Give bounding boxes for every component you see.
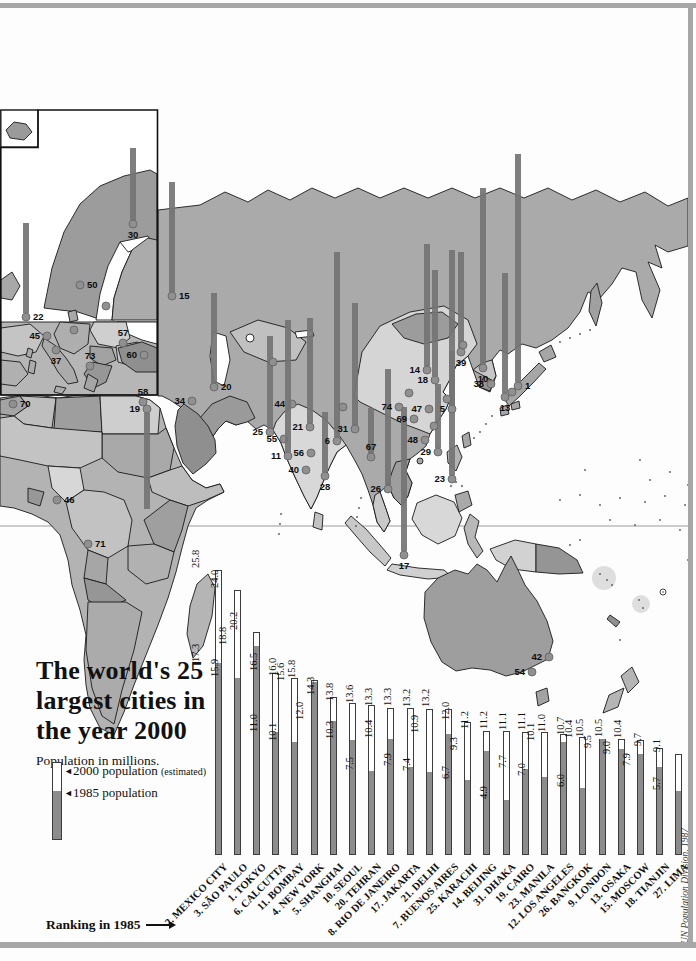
city-rank-label: 48 [407,434,418,445]
city-rank-label: 50 [87,279,98,290]
city-dot [421,436,429,444]
city-dot [508,388,516,396]
city-rank-label: 15 [179,290,190,301]
city-dot [528,668,536,676]
sri-lanka [313,512,323,530]
frame-top [0,3,696,8]
new-caledonia [607,615,620,627]
legend-sample-bar-1985-segment [53,791,61,839]
city-rank-label: 6 [325,435,330,446]
city-dot [367,453,375,461]
city-rank-label: 45 [29,330,40,341]
map-population-bar [334,252,340,437]
city-dot [501,393,509,401]
city-dot [140,351,148,359]
map-population-bar [385,369,391,485]
city-dot [210,383,218,391]
city-rank-label: 31 [337,423,348,434]
map-population-bar [130,148,136,220]
city-dot [410,415,418,423]
city-rank-label: 42 [531,651,542,662]
map-population-bar [307,318,313,423]
city-dot [333,437,341,445]
city-dot [514,382,522,390]
city-rank-label: 39 [456,357,467,368]
city-dot [86,362,94,370]
city-rank-label: 30 [128,229,139,240]
city-rank-label: 19 [129,403,140,414]
city-dot [76,281,84,289]
city-rank-label: 70 [20,398,31,409]
city-rank-label: 55 [266,433,277,444]
ranking-label: Ranking in 1985 [46,917,141,932]
city-dot [443,395,451,403]
city-dot [545,653,553,661]
city-dot [321,472,329,480]
city-rank-label: 56 [293,447,304,458]
city-rank-label: 18 [417,374,428,385]
legend-2000-note: (estimated) [161,766,206,777]
city-dot [9,400,17,408]
city-rank-label: 54 [514,666,525,677]
map-population-bar [435,384,441,448]
poster-title-line-3: the year 2000 [36,716,246,746]
atlas-poster: 3022504537735760155819347046712044212555… [0,0,696,961]
city-dot [70,326,78,334]
new-zealand-south [603,688,624,713]
city-dot [487,380,495,388]
city-dot [52,346,60,354]
city-dot [459,341,467,349]
city-rank-label: 34 [174,395,185,406]
city-dot [384,485,392,493]
city-dot [448,475,456,483]
city-rank-label: 57 [118,327,129,338]
city-rank-label: 23 [434,473,445,484]
city-dot [22,313,30,321]
city-rank-label: 69 [396,413,407,424]
sulawesi [464,514,483,558]
city-dot [479,364,487,372]
city-dot [143,405,151,413]
map-population-bar [352,303,358,425]
city-dot [84,540,92,548]
map-population-bar [144,413,150,509]
city-dot [102,302,110,310]
denmark [68,310,78,322]
city-rank-label: 13 [500,402,511,413]
city-dot [129,220,137,228]
city-rank-label: 11 [271,450,282,461]
sardinia [28,360,36,374]
city-rank-label: 29 [420,446,431,457]
city-dot [434,448,442,456]
city-rank-label: 47 [411,403,422,414]
poster-title-line-2: largest cities in [36,686,246,716]
map-population-bar [211,293,217,383]
legend-sample-bar [52,762,62,840]
legend-arrow-icon: ◄ [64,766,73,776]
map-population-bar [424,244,430,366]
city-rank-label: 38 [473,378,484,389]
city-dot [284,452,292,460]
city-dot [168,292,176,300]
map-population-bar [432,270,438,376]
city-rank-label: 20 [221,381,232,392]
legend-arrow-icon: ◄ [64,788,73,798]
map-population-bar [267,336,273,428]
map-population-bar [285,320,291,452]
city-rank-label: 67 [366,441,377,452]
map-population-bar [502,273,508,393]
map-population-bar [480,188,486,364]
city-rank-label: 21 [292,421,303,432]
city-dot [351,425,359,433]
city-dot [306,423,314,431]
map-population-bar [449,250,455,405]
borneo [412,495,462,544]
city-dot [425,405,433,413]
city-dot [430,422,438,430]
city-dot [188,397,196,405]
city-rank-label: 26 [370,483,381,494]
city-rank-label: 44 [274,398,285,409]
city-dot [431,376,439,384]
tasmania [536,688,549,706]
legend-2000-label: 2000 population [73,763,158,778]
